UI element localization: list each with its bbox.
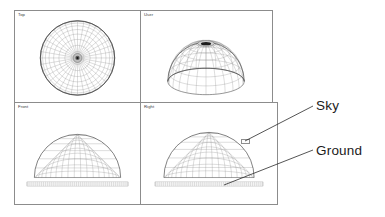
ground-strip-right — [155, 182, 263, 186]
viewport-top[interactable]: Top — [14, 10, 141, 103]
viewport-label-user: User — [144, 12, 153, 18]
selection-marker[interactable] — [241, 139, 250, 144]
viewport-right[interactable]: Right — [140, 102, 278, 205]
right-view-wireframe — [141, 103, 277, 204]
viewport-front[interactable]: Front — [14, 102, 141, 205]
screenshot-root: Top User Front Right — [0, 0, 385, 217]
top-view-wireframe — [15, 11, 140, 102]
annotation-label-ground: Ground — [316, 143, 362, 158]
viewport-user[interactable]: User — [140, 10, 273, 103]
viewport-label-top: Top — [18, 12, 25, 18]
user-view-wireframe — [141, 11, 272, 102]
ground-strip-front — [27, 182, 128, 186]
viewport-label-front: Front — [18, 104, 28, 110]
viewport-label-right: Right — [144, 104, 154, 110]
front-view-wireframe — [15, 103, 140, 204]
annotation-label-sky: Sky — [316, 98, 339, 113]
